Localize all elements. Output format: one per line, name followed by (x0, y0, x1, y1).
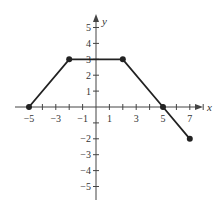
y-axis-arrow-icon (93, 14, 99, 22)
data-point (26, 104, 32, 110)
axes: xy (15, 14, 212, 200)
piecewise-graph: xy −5−3−1135754321−2−3−4−5 (0, 0, 220, 208)
x-axis-arrow-icon (195, 104, 203, 110)
data-point (160, 104, 166, 110)
x-tick-label: −3 (50, 113, 61, 124)
y-tick-label: −5 (80, 181, 91, 192)
data-point (120, 56, 126, 62)
x-tick-label: −5 (24, 113, 35, 124)
x-tick-label: 3 (134, 113, 139, 124)
x-tick-label: 1 (107, 113, 112, 124)
y-axis-label: y (101, 15, 107, 27)
data-line (29, 59, 190, 139)
x-tick-label: 7 (187, 113, 192, 124)
y-tick-label: 4 (86, 38, 91, 49)
y-tick-label: −4 (80, 165, 91, 176)
y-tick-label: 5 (86, 22, 91, 33)
y-tick-label: 1 (86, 86, 91, 97)
data-point (187, 136, 193, 142)
x-tick-label: 5 (161, 113, 166, 124)
y-tick-label: −3 (80, 149, 91, 160)
x-tick-label: −1 (77, 113, 88, 124)
data-point (66, 56, 72, 62)
y-tick-label: 2 (86, 70, 91, 81)
data-series (26, 56, 193, 142)
x-axis-label: x (206, 101, 212, 113)
y-tick-label: −2 (80, 133, 91, 144)
